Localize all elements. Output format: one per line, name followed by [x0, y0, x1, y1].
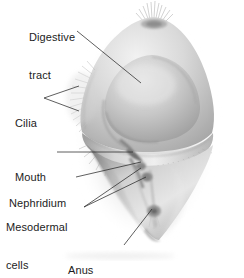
label-anus-line1: Anus	[68, 264, 93, 277]
label-mesodermal-cells-line1: Mesodermal	[6, 221, 68, 234]
leader-mesodermal-upper	[84, 168, 141, 207]
label-mesodermal-cells: Mesodermal cells	[6, 196, 68, 278]
label-mesodermal-cells-line2: cells	[6, 259, 68, 272]
label-anus: Anus	[68, 239, 93, 278]
leader-anus	[124, 209, 152, 245]
label-digestive-tract-line1: Digestive	[29, 31, 75, 44]
leader-mesodermal-lower	[84, 177, 146, 207]
label-cilia-line1: Cilia	[15, 117, 37, 130]
leader-digestive-tract	[77, 31, 141, 83]
label-digestive-tract-line2: tract	[29, 69, 75, 82]
label-digestive-tract: Digestive tract	[29, 6, 75, 106]
